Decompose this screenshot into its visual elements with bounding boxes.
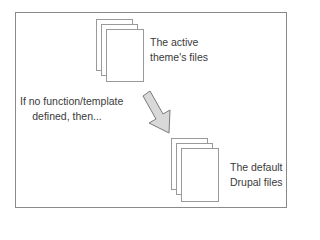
condition-label: If no function/template defined, then... xyxy=(20,94,114,123)
condition-label-line-1: If no function/template xyxy=(20,94,114,109)
active-theme-files-label-line-1: The active xyxy=(150,35,198,50)
default-drupal-files-label: The default Drupal files xyxy=(230,160,284,189)
document-page-front-icon xyxy=(106,29,144,82)
default-drupal-files-label-line-1: The default xyxy=(230,160,284,175)
condition-label-line-2: defined, then... xyxy=(20,109,114,124)
active-theme-files-label-line-2: theme's files xyxy=(150,50,198,65)
document-page-front-icon xyxy=(181,148,219,202)
default-drupal-files-label-line-2: Drupal files xyxy=(230,175,284,190)
active-theme-files-label: The active theme's files xyxy=(150,35,198,64)
